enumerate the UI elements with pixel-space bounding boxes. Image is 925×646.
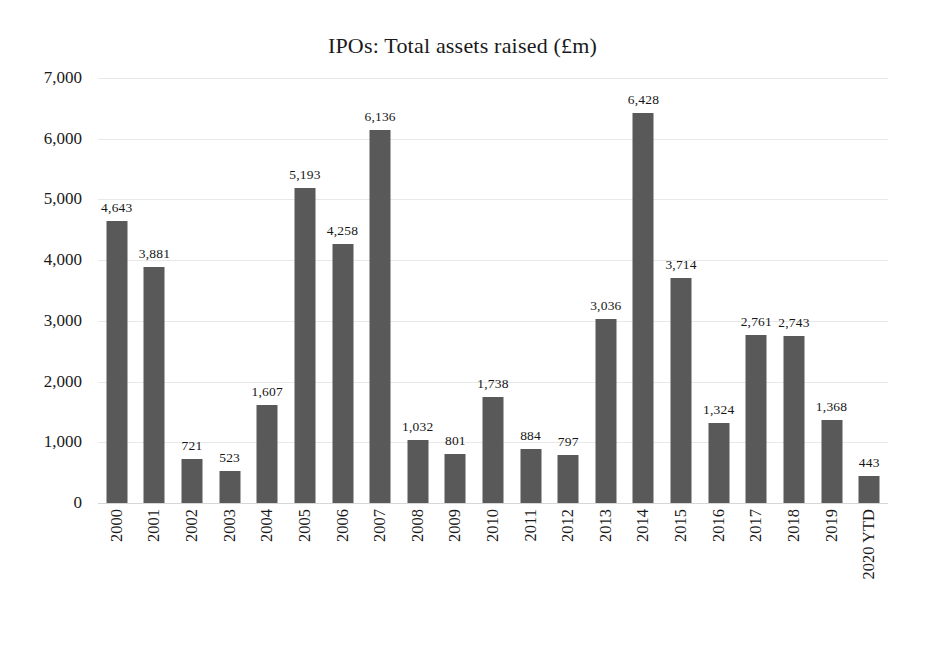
bar[interactable] — [633, 113, 654, 503]
bar-group: 801 — [437, 78, 475, 503]
bar-value-label: 2,761 — [741, 314, 772, 330]
x-axis-tick-label: 2012 — [558, 509, 578, 542]
bar[interactable] — [708, 423, 729, 503]
gridline — [98, 503, 888, 504]
x-axis-tick-label: 2017 — [746, 509, 766, 542]
bar[interactable] — [294, 188, 315, 503]
x-axis-tick-label: 2011 — [521, 509, 541, 541]
bar-value-label: 1,032 — [402, 419, 433, 435]
bar-group: 721 — [173, 78, 211, 503]
bar-value-label: 1,607 — [252, 384, 283, 400]
bar-group: 1,324 — [700, 78, 738, 503]
bar-group: 1,738 — [474, 78, 512, 503]
bar-value-label: 3,714 — [665, 257, 696, 273]
y-axis-tick-label: 3,000 — [0, 311, 82, 331]
x-axis-tick-label: 2001 — [144, 509, 164, 542]
y-axis-tick-label: 1,000 — [0, 432, 82, 452]
bar-group: 443 — [850, 78, 888, 503]
bar[interactable] — [257, 405, 278, 503]
x-axis-tick-label: 2000 — [107, 509, 127, 542]
bar[interactable] — [671, 278, 692, 503]
bar-value-label: 721 — [182, 438, 203, 454]
y-axis-tick-label: 5,000 — [0, 189, 82, 209]
bar[interactable] — [859, 476, 880, 503]
x-axis-tick-label: 2013 — [596, 509, 616, 542]
bar-group: 1,607 — [248, 78, 286, 503]
bar-group: 797 — [549, 78, 587, 503]
bar-group: 6,428 — [625, 78, 663, 503]
x-axis-tick-label: 2018 — [784, 509, 804, 542]
bar[interactable] — [407, 440, 428, 503]
bar-group: 1,032 — [399, 78, 437, 503]
bar-value-label: 1,324 — [703, 402, 734, 418]
x-axis-tick-label: 2007 — [370, 509, 390, 542]
bar-group: 523 — [211, 78, 249, 503]
bar-group: 3,036 — [587, 78, 625, 503]
bar-value-label: 3,036 — [590, 298, 621, 314]
bar-value-label: 6,136 — [364, 109, 395, 125]
bar-group: 6,136 — [361, 78, 399, 503]
bar-value-label: 5,193 — [289, 167, 320, 183]
bar[interactable] — [482, 397, 503, 503]
bar-group: 2,743 — [775, 78, 813, 503]
x-axis-tick-label: 2006 — [333, 509, 353, 542]
bar[interactable] — [821, 420, 842, 503]
bar-value-label: 884 — [520, 428, 541, 444]
bar-group: 884 — [512, 78, 550, 503]
bar[interactable] — [783, 336, 804, 503]
bar-value-label: 1,368 — [816, 399, 847, 415]
y-axis-tick-label: 7,000 — [0, 68, 82, 88]
bar[interactable] — [106, 221, 127, 503]
bar[interactable] — [595, 319, 616, 503]
bar-value-label: 4,643 — [101, 200, 132, 216]
x-axis-tick-label: 2016 — [709, 509, 729, 542]
x-axis-tick-label: 2009 — [445, 509, 465, 542]
bar[interactable] — [370, 130, 391, 503]
bar-group: 5,193 — [286, 78, 324, 503]
page-title: IPOs: Total assets raised (£m) — [0, 33, 925, 59]
x-axis-tick-label: 2020 YTD — [859, 509, 879, 579]
bar-value-label: 797 — [558, 434, 579, 450]
bar-group: 4,258 — [324, 78, 362, 503]
plot-area: 4,6433,8817215231,6075,1934,2586,1361,03… — [98, 78, 888, 503]
bar[interactable] — [445, 454, 466, 503]
y-axis-tick-label: 6,000 — [0, 129, 82, 149]
x-axis-tick-label: 2004 — [257, 509, 277, 542]
bar-group: 3,881 — [136, 78, 174, 503]
bar-group: 4,643 — [98, 78, 136, 503]
bar-group: 2,761 — [738, 78, 776, 503]
bar[interactable] — [219, 471, 240, 503]
bar[interactable] — [182, 459, 203, 503]
y-axis-tick-label: 2,000 — [0, 372, 82, 392]
bar[interactable] — [746, 335, 767, 503]
x-axis-tick-label: 2019 — [822, 509, 842, 542]
y-axis-tick-label: 0 — [0, 493, 82, 513]
bar-value-label: 1,738 — [477, 376, 508, 392]
chart-page: IPOs: Total assets raised (£m) 01,0002,0… — [0, 0, 925, 646]
x-axis-tick-label: 2014 — [633, 509, 653, 542]
bar[interactable] — [144, 267, 165, 503]
x-axis-tick-label: 2015 — [671, 509, 691, 542]
y-axis-tick-label: 4,000 — [0, 250, 82, 270]
x-axis-tick-label: 2005 — [295, 509, 315, 542]
bar-value-label: 2,743 — [778, 315, 809, 331]
x-axis-tick-label: 2008 — [408, 509, 428, 542]
bar-group: 1,368 — [813, 78, 851, 503]
bar-value-label: 3,881 — [139, 246, 170, 262]
x-axis-tick-label: 2010 — [483, 509, 503, 542]
bar[interactable] — [558, 455, 579, 503]
bar[interactable] — [332, 244, 353, 503]
bar-group: 3,714 — [662, 78, 700, 503]
bar-value-label: 6,428 — [628, 92, 659, 108]
x-axis-tick-label: 2003 — [220, 509, 240, 542]
bar-value-label: 801 — [445, 433, 466, 449]
bar-value-label: 4,258 — [327, 223, 358, 239]
bar-value-label: 523 — [219, 450, 240, 466]
bar[interactable] — [520, 449, 541, 503]
bar-value-label: 443 — [859, 455, 880, 471]
x-axis-tick-label: 2002 — [182, 509, 202, 542]
